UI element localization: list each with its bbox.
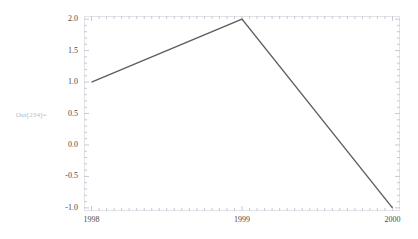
plot-frame [85,17,400,211]
y-tick-label: 0.5 [52,109,78,118]
data-series-line [92,19,393,208]
y-tick-label: 1.5 [52,46,78,55]
y-tick-label: 1.0 [52,77,78,86]
plot-area[interactable] [84,16,400,211]
x-tick-label: 1998 [72,215,112,224]
x-tick-label: 2000 [372,215,412,224]
notebook-output-cell: Out[234]= 2.01.51.00.50.0-0.5-1.0 199819… [0,0,418,239]
y-tick-label: -1.0 [52,203,78,212]
y-tick-label: 0.0 [52,140,78,149]
y-tick-label: -0.5 [52,171,78,180]
y-tick-label: 2.0 [52,14,78,23]
plot-svg [84,16,400,211]
output-label: Out[234]= [16,111,47,119]
x-tick-label: 1999 [222,215,262,224]
